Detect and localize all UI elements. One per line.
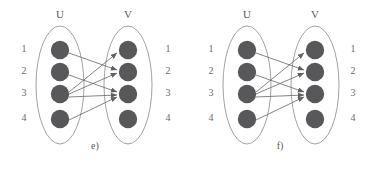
label-v2: 2 — [347, 65, 359, 76]
diagram-panel-e: U V 1 2 3 4 1 2 3 4 e) — [0, 0, 186, 171]
label-u4: 4 — [18, 112, 30, 123]
label-v4: 4 — [347, 112, 359, 123]
edge-group — [256, 53, 304, 120]
edge-u4-v3 — [256, 97, 304, 120]
label-v2: 2 — [162, 65, 174, 76]
label-u4: 4 — [205, 112, 217, 123]
node-u1 — [238, 41, 256, 59]
label-u2: 2 — [18, 65, 30, 76]
label-u3: 3 — [18, 87, 30, 98]
edge-u1-v2 — [69, 53, 117, 70]
node-v3 — [306, 85, 324, 103]
node-v2 — [306, 63, 324, 81]
node-u2 — [51, 63, 69, 81]
panel-caption-f: f) — [267, 140, 293, 151]
node-v3 — [119, 85, 137, 103]
node-u4 — [51, 110, 69, 128]
edge-u3-v3 — [256, 95, 304, 97]
node-group-v — [306, 41, 324, 128]
panel-caption-e: e) — [82, 140, 108, 151]
label-u1: 1 — [18, 43, 30, 54]
bipartite-graph-figure: U V 1 2 3 4 1 2 3 4 e) — [0, 0, 373, 171]
node-u1 — [51, 41, 69, 59]
edge-u3-v2 — [256, 73, 304, 94]
edge-group — [69, 53, 117, 120]
edge-u3-v3 — [69, 95, 117, 97]
diagram-panel-f: U V 1 2 3 4 1 2 3 4 f) — [187, 0, 373, 171]
edge-u3-v2 — [69, 73, 117, 94]
node-v4 — [306, 110, 324, 128]
node-u2 — [238, 63, 256, 81]
set-title-u: U — [237, 8, 257, 20]
edge-u1-v2 — [256, 53, 304, 70]
node-v2 — [119, 63, 137, 81]
node-v1 — [119, 41, 137, 59]
node-u3 — [238, 85, 256, 103]
label-v4: 4 — [162, 112, 174, 123]
edge-u4-v3 — [69, 97, 117, 120]
edge-u3-v1 — [69, 53, 117, 92]
node-group-v — [119, 41, 137, 128]
label-v3: 3 — [347, 87, 359, 98]
label-v1: 1 — [162, 43, 174, 54]
node-v4 — [119, 110, 137, 128]
label-v1: 1 — [347, 43, 359, 54]
set-title-v: V — [118, 8, 138, 20]
label-v3: 3 — [162, 87, 174, 98]
label-u2: 2 — [205, 65, 217, 76]
set-title-v: V — [305, 8, 325, 20]
set-title-u: U — [50, 8, 70, 20]
label-u1: 1 — [205, 43, 217, 54]
node-v1 — [306, 41, 324, 59]
label-u3: 3 — [205, 87, 217, 98]
edge-u3-v1 — [256, 53, 304, 92]
node-u3 — [51, 85, 69, 103]
node-u4 — [238, 110, 256, 128]
node-group-u — [51, 41, 69, 128]
node-group-u — [238, 41, 256, 128]
